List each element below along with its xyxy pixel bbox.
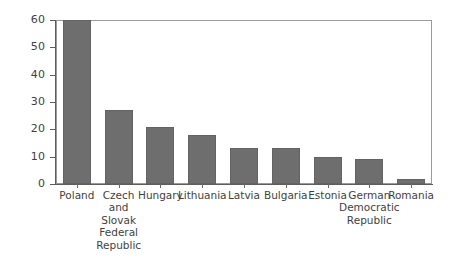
bar xyxy=(105,110,133,184)
x-axis-category-label-line: Slovak xyxy=(75,214,163,226)
bar xyxy=(63,20,91,184)
bar xyxy=(146,127,174,184)
x-axis-tick xyxy=(369,184,370,188)
x-axis-tick xyxy=(160,184,161,188)
x-axis-tick xyxy=(411,184,412,188)
x-axis-category-label-line: Republic xyxy=(75,239,163,251)
x-axis-category-label: Romania xyxy=(367,189,454,201)
x-axis-category-label-line: and xyxy=(75,201,163,213)
y-axis-tick-label: 50 xyxy=(31,41,45,52)
y-axis-tick xyxy=(50,184,56,185)
bar-chart-figure: 0102030405060 PolandCzechandSlovakFedera… xyxy=(0,0,454,262)
x-axis-category-label-line: Federal xyxy=(75,226,163,238)
x-axis-tick xyxy=(286,184,287,188)
y-axis-tick-label: 40 xyxy=(31,69,45,80)
x-axis-category-label-line: Republic xyxy=(325,214,413,226)
y-axis-tick-label: 30 xyxy=(31,96,45,107)
y-axis-tick-label: 0 xyxy=(38,178,45,189)
y-axis-tick-label: 60 xyxy=(31,14,45,25)
bars-layer xyxy=(56,20,432,184)
x-axis-tick xyxy=(119,184,120,188)
x-axis-tick xyxy=(328,184,329,188)
x-axis-tick xyxy=(77,184,78,188)
x-axis-category-label-line: Romania xyxy=(367,189,454,201)
y-axis-tick-label: 20 xyxy=(31,123,45,134)
x-axis-tick xyxy=(202,184,203,188)
bar xyxy=(230,148,258,184)
y-axis-tick-label: 10 xyxy=(31,151,45,162)
x-axis-category-label-line: Democratic xyxy=(325,201,413,213)
bar xyxy=(272,148,300,184)
x-axis-tick xyxy=(244,184,245,188)
bar xyxy=(188,135,216,184)
bar xyxy=(355,159,383,184)
bar xyxy=(314,157,342,184)
